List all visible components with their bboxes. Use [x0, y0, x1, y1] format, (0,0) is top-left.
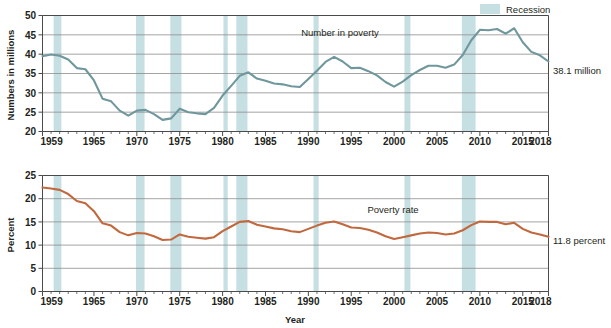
legend: Recession	[480, 4, 550, 15]
y-tick-label: 35	[25, 68, 37, 79]
poverty-figure: Recession 20253035404550 195919651970197…	[0, 0, 611, 328]
chart-poverty-rate: 0510152025 19591965197019751980198519901…	[5, 170, 605, 325]
y-axis-ticks-top: 20253035404550	[25, 10, 43, 137]
x-tick-label: 1995	[340, 136, 363, 147]
x-tick-label: 1965	[83, 296, 106, 307]
x-tick-label: 1990	[297, 296, 320, 307]
recession-band	[223, 176, 227, 292]
series-label-number-in-poverty: Number in poverty	[301, 27, 379, 38]
x-tick-label: 2010	[469, 136, 492, 147]
y-tick-label: 30	[25, 88, 37, 99]
x-tick-label: 1959	[41, 296, 64, 307]
x-tick-label: 2000	[383, 136, 406, 147]
x-tick-label: 1985	[254, 136, 277, 147]
y-tick-label: 50	[25, 10, 37, 21]
y-tick-label: 15	[25, 217, 37, 228]
x-axis-ticks-top: 1959196519701975198019851990199520002005…	[41, 136, 552, 147]
y-tick-label: 25	[25, 107, 37, 118]
x-axis-ticks-bottom: 1959196519701975198019851990199520002005…	[41, 296, 552, 307]
chart-number-in-poverty: 20253035404550 1959196519701975198019851…	[5, 10, 601, 146]
y-axis-label-top: Numbers in millions	[5, 30, 16, 121]
end-value-label-bottom: 11.8 percent	[553, 235, 605, 246]
y-tick-label: 0	[30, 286, 36, 297]
x-tick-label: 1970	[126, 296, 149, 307]
series-label-poverty-rate: Poverty rate	[367, 204, 418, 215]
recession-band	[314, 176, 319, 292]
end-value-label-top: 38.1 million	[553, 65, 601, 76]
recession-band	[54, 176, 62, 292]
x-tick-label: 2018	[529, 136, 552, 147]
x-tick-label: 1980	[211, 296, 234, 307]
x-tick-label: 1980	[211, 136, 234, 147]
x-tick-label: 1975	[169, 296, 192, 307]
x-tick-label: 2018	[529, 296, 552, 307]
x-tick-label: 2005	[426, 136, 449, 147]
y-tick-label: 10	[25, 240, 37, 251]
x-axis-label-year: Year	[285, 314, 305, 325]
y-tick-label: 20	[25, 126, 37, 137]
recession-band	[462, 176, 476, 292]
recession-band	[236, 176, 247, 292]
recession-band	[404, 176, 410, 292]
y-tick-label: 25	[25, 170, 37, 181]
x-tick-label: 1970	[126, 136, 149, 147]
y-axis-label-bottom: Percent	[5, 217, 16, 253]
x-tick-label: 1965	[83, 136, 106, 147]
x-tick-label: 1959	[41, 136, 64, 147]
y-tick-label: 40	[25, 49, 37, 60]
x-tick-label: 1985	[254, 296, 277, 307]
poverty-chart-svg: Recession 20253035404550 195919651970197…	[0, 0, 611, 328]
x-tick-label: 1990	[297, 136, 320, 147]
y-tick-label: 45	[25, 30, 37, 41]
x-tick-label: 2005	[426, 296, 449, 307]
x-tick-label: 1995	[340, 296, 363, 307]
x-tick-label: 2010	[469, 296, 492, 307]
recession-legend-label: Recession	[506, 4, 550, 15]
recession-bands-bottom	[54, 176, 476, 292]
recession-legend-swatch	[480, 4, 500, 14]
y-tick-label: 5	[30, 263, 36, 274]
y-tick-label: 20	[25, 193, 37, 204]
y-axis-ticks-bottom: 0510152025	[25, 170, 43, 297]
x-tick-label: 1975	[169, 136, 192, 147]
x-tick-label: 2000	[383, 296, 406, 307]
